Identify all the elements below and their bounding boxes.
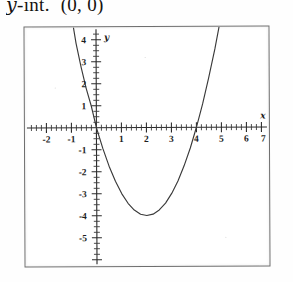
x-axis-label: x [259, 110, 266, 120]
y-tick-label: 1 [82, 101, 87, 111]
y-tick-label: -4 [79, 211, 87, 221]
y-intercept-answer: y-int.(0, 0) [6, 0, 286, 19]
worksheet-page: y-int.(0, 0) [0, 0, 293, 282]
y-intercept-label: -int. [17, 0, 50, 15]
y-tick-label: -2 [79, 167, 87, 177]
x-tick-label: 7 [261, 133, 266, 143]
y-axis-minor-ticks [93, 34, 100, 254]
y-tick-label: -3 [79, 189, 87, 199]
parabola-curve [73, 27, 219, 216]
x-tick-label: 5 [219, 134, 224, 144]
x-tick-label: 1 [119, 134, 124, 144]
x-axis-tick-labels: -2 -1 1 2 3 4 5 6 7 [42, 133, 266, 144]
y-tick-label: 3 [81, 57, 86, 67]
y-tick-label: 2 [81, 79, 86, 89]
y-tick-label: -5 [79, 233, 87, 243]
x-tick-label: 2 [144, 134, 149, 144]
y-axis-tick-labels: 4 3 2 1 -1 -2 -3 -4 -5 [78, 35, 87, 243]
x-tick-label: -2 [42, 134, 50, 144]
y-tick-label: -1 [79, 145, 87, 155]
y-axis [96, 29, 97, 264]
y-intercept-variable: y [6, 0, 17, 15]
y-axis-label: y [103, 32, 110, 42]
x-tick-label: 3 [169, 134, 174, 144]
x-tick-label: -1 [67, 134, 75, 144]
y-tick-label: 4 [81, 35, 86, 45]
x-tick-label: 4 [194, 134, 199, 144]
parabola-plot: -2 -1 1 2 3 4 5 6 7 4 3 2 1 -1 -2 -3 -4 … [24, 26, 269, 266]
x-tick-label: 6 [244, 134, 249, 144]
y-intercept-point: (0, 0) [61, 0, 104, 15]
graph-frame: -2 -1 1 2 3 4 5 6 7 4 3 2 1 -1 -2 -3 -4 … [23, 25, 270, 267]
